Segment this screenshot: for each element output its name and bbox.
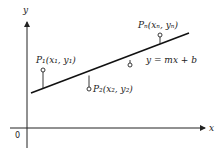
point-p2: P₂(x₂, y₂)	[87, 76, 133, 95]
point-pn-label: Pₙ(xₙ, yₙ)	[137, 20, 178, 30]
point-unlabeled	[128, 60, 132, 67]
origin-label: 0	[15, 131, 20, 140]
regression-diagram: y x 0 y = mx + b P₁(x₁, y₁) P₂(x₂, y₂) P…	[0, 0, 219, 151]
point-p1-label: P₁(x₁, y₁)	[35, 55, 76, 65]
point-pn: Pₙ(xₙ, yₙ)	[137, 20, 178, 44]
y-axis-label: y	[22, 5, 29, 15]
line-equation-label: y = mx + b	[145, 55, 197, 65]
point-p2-label: P₂(x₂, y₂)	[92, 84, 133, 94]
x-axis-label: x	[209, 123, 214, 133]
